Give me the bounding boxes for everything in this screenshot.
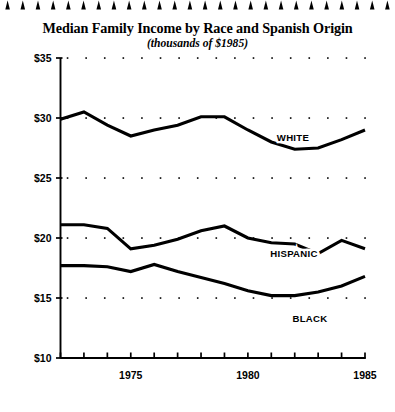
y-axis-tick-label: $35 bbox=[34, 52, 52, 64]
series-label-black: BLACK bbox=[292, 313, 327, 324]
y-axis-tick-label: $30 bbox=[34, 112, 52, 124]
data-series-layer bbox=[61, 112, 366, 296]
y-axis-tick-labels: $35$30$25$20$15$10 bbox=[34, 52, 52, 364]
series-line-white bbox=[61, 112, 366, 149]
x-axis-tick-labels: 197519801985 bbox=[119, 369, 377, 381]
line-chart: $35$30$25$20$15$10 197519801985 WHITEWHI… bbox=[0, 0, 395, 412]
series-label-white: WHITE bbox=[277, 132, 310, 143]
y-axis-tick-label: $15 bbox=[34, 292, 52, 304]
series-line-black bbox=[61, 264, 366, 295]
series-line-hispanic bbox=[61, 225, 366, 254]
y-axis-tick-label: $10 bbox=[34, 352, 52, 364]
y-axis-tick-label: $25 bbox=[34, 172, 52, 184]
x-axis-tick-label: 1985 bbox=[353, 369, 377, 381]
series-label-hispanic: HISPANIC bbox=[270, 248, 318, 259]
x-axis-tick-label: 1975 bbox=[119, 369, 143, 381]
y-axis-tick-label: $20 bbox=[34, 232, 52, 244]
x-axis-tick-label: 1980 bbox=[236, 369, 260, 381]
